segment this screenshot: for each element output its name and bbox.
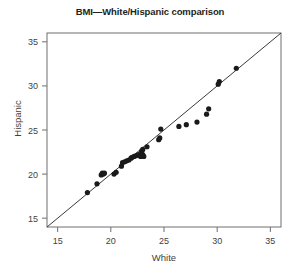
data-point — [158, 127, 163, 132]
plot-area-svg: 1520253035 1520253035 — [0, 0, 300, 275]
x-axis-title: White — [47, 252, 281, 263]
data-point — [85, 190, 90, 195]
x-tick-label: 25 — [159, 236, 169, 246]
data-point — [194, 119, 199, 124]
x-tick-label: 20 — [106, 236, 116, 246]
data-point — [184, 122, 189, 127]
data-point — [204, 112, 209, 117]
scatter-chart-figure: BMI—White/Hispanic comparison 1520253035… — [0, 0, 300, 275]
y-tick-label: 30 — [28, 81, 38, 91]
data-point — [114, 170, 119, 175]
data-point — [102, 171, 107, 176]
y-tick-label: 15 — [28, 214, 38, 224]
x-tick-label: 35 — [265, 236, 275, 246]
data-point — [94, 181, 99, 186]
data-point — [144, 144, 149, 149]
y-axis-title: Hispanic — [12, 69, 23, 169]
data-point — [157, 135, 162, 140]
data-point — [141, 154, 146, 159]
y-axis-ticks: 1520253035 — [28, 37, 47, 223]
data-point — [176, 124, 181, 129]
data-point — [217, 79, 222, 84]
y-tick-label: 25 — [28, 126, 38, 136]
y-tick-label: 20 — [28, 170, 38, 180]
x-axis-ticks: 1520253035 — [53, 227, 276, 246]
data-point — [234, 66, 239, 71]
y-tick-label: 35 — [28, 37, 38, 47]
data-point — [206, 106, 211, 111]
x-tick-label: 30 — [212, 236, 222, 246]
x-tick-label: 15 — [53, 236, 63, 246]
